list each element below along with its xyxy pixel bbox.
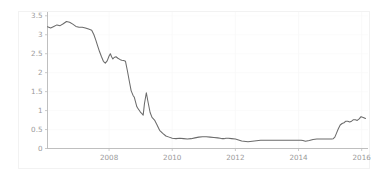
y-tick-label: 1 bbox=[38, 106, 43, 115]
x-tick-label: 2016 bbox=[353, 153, 372, 162]
y-tick-label: 3.5 bbox=[31, 11, 42, 20]
vertical-gridlines bbox=[109, 12, 362, 149]
chart-figure: 00.511.522.533.5 20082010201220142016 bbox=[0, 0, 385, 181]
y-tick-label: 3 bbox=[38, 30, 43, 39]
y-tick-label: 2 bbox=[38, 68, 43, 77]
line-chart-plot: 00.511.522.533.5 20082010201220142016 bbox=[0, 0, 385, 181]
x-axis-ticks: 20082010201220142016 bbox=[100, 149, 371, 162]
x-tick-label: 2010 bbox=[163, 153, 182, 162]
horizontal-gridlines bbox=[48, 16, 369, 130]
y-tick-label: 2.5 bbox=[31, 49, 42, 58]
y-tick-label: 0 bbox=[38, 144, 43, 153]
x-tick-label: 2012 bbox=[226, 153, 244, 162]
axis-spines bbox=[47, 12, 368, 149]
y-tick-label: 0.5 bbox=[31, 125, 42, 134]
y-tick-label: 1.5 bbox=[31, 87, 42, 96]
x-tick-label: 2008 bbox=[100, 153, 119, 162]
x-tick-label: 2014 bbox=[289, 153, 308, 162]
y-axis-ticks: 00.511.522.533.5 bbox=[31, 11, 47, 153]
series-line-rate bbox=[48, 21, 366, 141]
